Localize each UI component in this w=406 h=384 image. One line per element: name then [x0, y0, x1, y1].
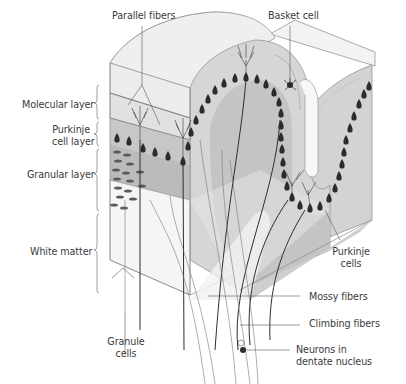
label-dentate-line1: Neurons in — [296, 344, 372, 356]
label-purkinje-layer-line2: cell layer — [52, 136, 90, 148]
label-white-matter: White matter — [30, 246, 92, 258]
label-parallel-fibers: Parallel fibers — [112, 10, 175, 22]
label-purkinje-cells-line1: Purkinje — [326, 246, 376, 258]
label-granular-layer: Granular layer — [27, 169, 95, 181]
label-basket-cell: Basket cell — [268, 10, 319, 22]
layer-braces — [94, 85, 99, 293]
label-purkinje-cells: Purkinje cells — [326, 246, 376, 269]
label-mossy-fibers: Mossy fibers — [309, 291, 368, 303]
label-purkinje-layer: Purkinje cell layer — [52, 124, 90, 147]
label-granule-cells: Granule cells — [104, 336, 148, 359]
label-purkinje-layer-line1: Purkinje — [52, 124, 90, 136]
label-dentate-line2: dentate nucleus — [296, 356, 372, 368]
label-granule-cells-line1: Granule — [104, 336, 148, 348]
label-molecular-layer: Molecular layer — [22, 99, 94, 111]
label-climbing-fibers: Climbing fibers — [309, 318, 380, 330]
label-granule-cells-line2: cells — [104, 348, 148, 360]
label-dentate-neurons: Neurons in dentate nucleus — [296, 344, 372, 367]
label-purkinje-cells-line2: cells — [326, 258, 376, 270]
